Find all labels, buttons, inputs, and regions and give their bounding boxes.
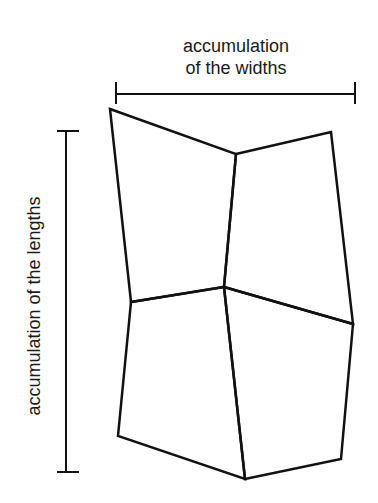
- lower-right-cell: [224, 287, 353, 479]
- cell-drawing: [0, 0, 378, 503]
- length-bracket: [57, 131, 79, 472]
- upper-right-cell: [224, 132, 353, 324]
- width-bracket: [116, 82, 355, 104]
- upper-left-cell: [110, 109, 236, 302]
- diagram-canvas: accumulation of the widths accumulation …: [0, 0, 378, 503]
